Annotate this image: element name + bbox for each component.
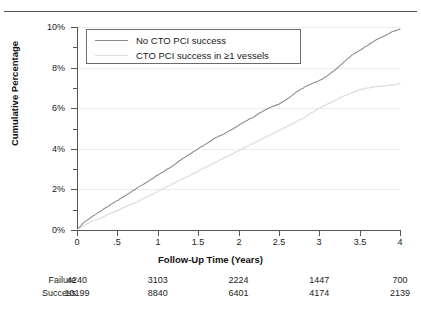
x-tick-4 [400, 231, 401, 236]
x-tick-label-0: 0 [62, 238, 92, 247]
y-minor-tick-5 [73, 129, 77, 130]
y-tick-label-2: 2% [25, 185, 65, 194]
y-minor-tick-7 [73, 88, 77, 89]
x-tick-label-3.5: 3.5 [345, 238, 375, 247]
y-minor-tick-9 [73, 47, 77, 48]
y-tick-label-10: 10% [25, 23, 65, 32]
top-divider-rule [4, 11, 417, 12]
numbers-at-risk-table: Failure4240310322241447700Success1019988… [0, 275, 421, 301]
risk-row-success: Success101998840640141742139 [0, 288, 421, 301]
risk-value-failure-3: 1447 [299, 275, 339, 285]
y-tick-10 [71, 27, 77, 28]
x-tick-label-2.5: 2.5 [264, 238, 294, 247]
legend-label-cto-pci-success: CTO PCI success in ≥1 vessels [136, 50, 269, 61]
x-tick-label-4: 4 [385, 238, 415, 247]
risk-value-success-4: 2139 [380, 288, 420, 298]
y-tick-4 [71, 149, 77, 150]
legend-label-no-cto-pci-success: No CTO PCI success [136, 35, 226, 46]
risk-value-success-2: 6401 [219, 288, 259, 298]
x-tick-label-1: 1 [143, 238, 173, 247]
risk-value-success-0: 10199 [57, 288, 97, 298]
x-tick-label-0.5: .5 [102, 238, 132, 247]
risk-value-failure-2: 2224 [219, 275, 259, 285]
y-axis-title: Cumulative Percentage [9, 14, 20, 174]
series-line-cto-pci-success [77, 84, 400, 230]
x-tick-2.5 [279, 231, 280, 236]
legend-item-cto-pci-success: CTO PCI success in ≥1 vessels [87, 48, 300, 63]
y-tick-8 [71, 68, 77, 69]
risk-value-failure-0: 4240 [57, 275, 97, 285]
figure-container: 0%2%4%6%8%10%0.511.522.533.54 No CTO PCI… [0, 0, 421, 318]
x-tick-label-1.5: 1.5 [183, 238, 213, 247]
risk-value-failure-1: 3103 [138, 275, 178, 285]
risk-value-success-1: 8840 [138, 288, 178, 298]
risk-value-failure-4: 700 [380, 275, 420, 285]
x-tick-0.5 [117, 231, 118, 236]
risk-row-failure: Failure4240310322241447700 [0, 275, 421, 288]
y-minor-tick-1 [73, 210, 77, 211]
y-tick-6 [71, 108, 77, 109]
x-tick-1 [158, 231, 159, 236]
x-tick-label-3: 3 [304, 238, 334, 247]
x-tick-0 [77, 231, 78, 236]
x-tick-3.5 [360, 231, 361, 236]
y-minor-tick-3 [73, 169, 77, 170]
x-axis-title: Follow-Up Time (Years) [0, 254, 421, 265]
y-tick-2 [71, 189, 77, 190]
y-tick-label-4: 4% [25, 145, 65, 154]
x-tick-2 [239, 231, 240, 236]
legend-swatch-no-cto-pci-success [95, 40, 128, 41]
x-tick-label-2: 2 [224, 238, 254, 247]
legend-item-no-cto-pci-success: No CTO PCI success [87, 33, 300, 48]
y-tick-label-6: 6% [25, 104, 65, 113]
x-tick-3 [319, 231, 320, 236]
y-tick-label-8: 8% [25, 64, 65, 73]
chart-legend: No CTO PCI success CTO PCI success in ≥1… [86, 29, 301, 64]
legend-swatch-cto-pci-success [95, 55, 128, 56]
x-tick-1.5 [198, 231, 199, 236]
risk-value-success-3: 4174 [299, 288, 339, 298]
y-tick-label-0: 0% [25, 226, 65, 235]
